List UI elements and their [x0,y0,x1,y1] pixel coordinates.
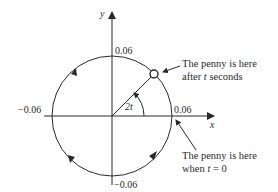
annotation-after-line1: The penny is here [182,58,257,69]
tick-label-left: −0.06 [18,104,41,115]
annotation-pointer-after [163,66,180,72]
angle-label: 2t [125,101,133,112]
direction-arrow-icon-bottom-right [149,151,157,160]
angle-arc [134,93,144,116]
annotation-pointer-start [176,120,196,150]
annotation-start-line2: when t = 0 [182,163,227,174]
annotation-after-line2: after t seconds [182,71,243,82]
penny-marker [150,70,158,78]
annotation-start-line1: The penny is here [182,150,257,161]
y-axis-label: y [99,8,105,19]
tick-label-top: 0.06 [115,45,133,56]
x-axis-label: x [209,119,215,130]
unit-circle-diagram: 2t y x 0.06 0.06 −0.06 −0.06 The penny i… [0,0,278,192]
tick-label-right: 0.06 [174,104,192,115]
tick-label-bottom: −0.06 [114,179,137,190]
